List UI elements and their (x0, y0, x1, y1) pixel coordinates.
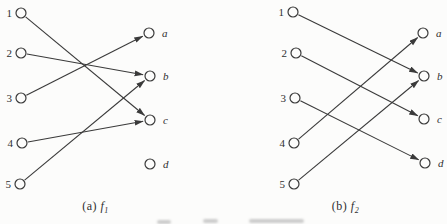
edge-arrow-1-to-c (26, 17, 145, 116)
node-label-f2-b: b (437, 70, 443, 82)
node-circle-f1-2 (16, 48, 26, 58)
edge-arrow-3-to-a (26, 36, 142, 95)
node-circle-f1-4 (17, 138, 27, 148)
caption-f2-prefix: (b) (332, 199, 348, 213)
node-label-f1-2: 2 (7, 47, 13, 59)
node-label-f1-b: b (163, 70, 169, 82)
edge-arrow-5-to-b (299, 80, 419, 180)
node-circle-f2-c (419, 114, 429, 124)
node-label-f2-c: c (437, 113, 442, 125)
node-label-f2-2: 2 (282, 47, 288, 59)
node-label-f1-4: 4 (8, 137, 14, 149)
edge-arrow-2-to-b (27, 54, 143, 75)
node-circle-f2-a (418, 28, 428, 38)
edge-arrow-4-to-a (299, 38, 418, 140)
caption-f1-symbol: f1 (100, 199, 108, 213)
node-label-f1-c: c (163, 114, 168, 126)
node-label-f1-d: d (163, 158, 169, 170)
edge-arrow-1-to-b (298, 15, 417, 73)
cropped-caption-fragment (203, 219, 218, 223)
edge-arrow-3-to-d (300, 101, 418, 160)
node-circle-f2-d (420, 158, 430, 168)
node-circle-f2-5 (289, 179, 299, 189)
node-label-f2-5: 5 (280, 178, 286, 190)
caption-f1-prefix: (a) (82, 199, 97, 213)
caption-f1: (a) f1 (58, 199, 133, 215)
node-circle-f1-b (145, 71, 155, 81)
node-label-f1-a: a (162, 27, 168, 39)
node-circle-f1-a (144, 28, 154, 38)
node-circle-f1-3 (16, 93, 26, 103)
node-label-f1-1: 1 (7, 7, 13, 19)
node-circle-f2-4 (289, 138, 299, 148)
node-label-f2-3: 3 (281, 92, 287, 104)
node-label-f2-4: 4 (280, 137, 286, 149)
node-circle-f2-2 (291, 48, 301, 58)
node-label-f2-1: 1 (279, 6, 285, 18)
edge-arrow-5-to-b (25, 80, 145, 180)
cropped-caption-fragment (249, 219, 304, 223)
node-circle-f1-d (145, 159, 155, 169)
node-label-f2-d: d (438, 157, 444, 169)
caption-f2: (b) f2 (308, 199, 383, 215)
caption-f2-symbol: f2 (351, 199, 359, 213)
node-label-f1-5: 5 (6, 178, 12, 190)
cropped-caption-fragment (157, 220, 171, 224)
node-circle-f2-1 (288, 7, 298, 17)
mapping-diagram-canvas: 12345abcd12345abcd (0, 0, 447, 224)
diagram-f2: 12345abcd (279, 6, 445, 190)
node-label-f2-a: a (436, 27, 442, 39)
node-circle-f2-3 (290, 93, 300, 103)
edge-arrow-4-to-c (28, 121, 143, 142)
figure-function-mappings: 12345abcd12345abcd (a) f1 (b) f2 (0, 0, 447, 224)
node-label-f1-3: 3 (7, 92, 13, 104)
node-circle-f1-1 (16, 8, 26, 18)
node-circle-f1-c (145, 115, 155, 125)
node-circle-f2-b (419, 71, 429, 81)
diagram-f1: 12345abcd (6, 7, 170, 190)
node-circle-f1-5 (15, 179, 25, 189)
